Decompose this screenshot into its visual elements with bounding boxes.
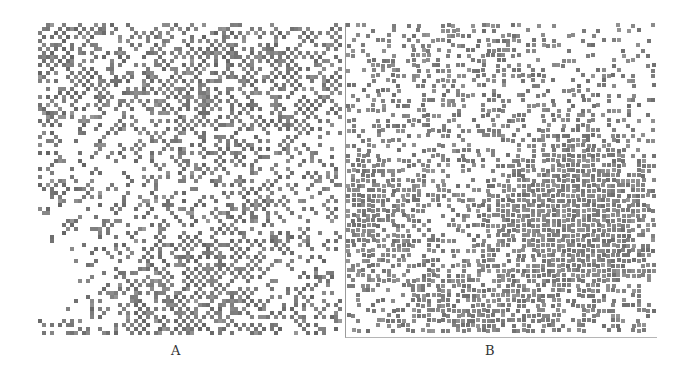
panel-a-lattice: [38, 23, 343, 337]
lattice-pattern-a: [38, 23, 343, 337]
clustered-pattern-b: [346, 23, 657, 337]
panel-b-label: B: [485, 343, 495, 358]
panel-a-label: A: [171, 343, 180, 358]
panel-b-clustered: [345, 23, 657, 338]
